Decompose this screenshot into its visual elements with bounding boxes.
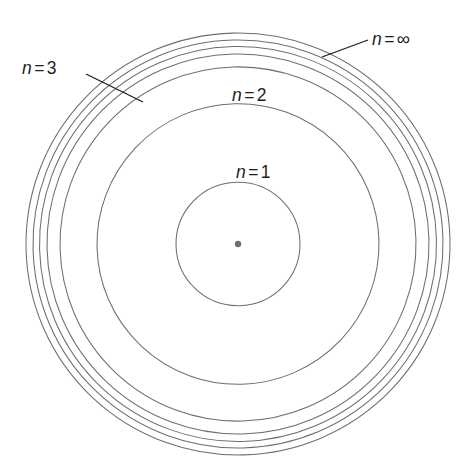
label-n-1-value: 1	[261, 162, 271, 182]
label-n-infinity-variable: n	[372, 29, 382, 49]
label-n-3-value: 3	[47, 58, 57, 78]
label-n-1-equals: =	[246, 162, 261, 182]
label-n-3: n=3	[22, 60, 57, 78]
label-n-3-equals: =	[32, 58, 47, 78]
leader-line-n-infinity	[322, 40, 368, 57]
label-n-1: n=1	[236, 164, 271, 182]
bohr-model-figure: n=1 n=2 n=3 n=∞	[0, 0, 468, 471]
label-n-2-value: 2	[257, 85, 267, 105]
label-n-infinity: n=∞	[372, 30, 410, 49]
label-n-3-variable: n	[22, 58, 32, 78]
label-n-infinity-value: ∞	[397, 28, 411, 49]
nucleus-dot	[235, 241, 241, 247]
label-n-infinity-equals: =	[382, 29, 397, 49]
orbit-diagram-canvas	[0, 0, 468, 471]
label-n-2-equals: =	[242, 85, 257, 105]
label-n-1-variable: n	[236, 162, 246, 182]
label-n-2: n=2	[232, 87, 267, 105]
label-n-2-variable: n	[232, 85, 242, 105]
